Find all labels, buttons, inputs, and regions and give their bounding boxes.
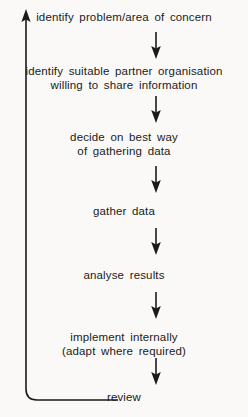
flow-node-decide-best-way: decide on best way of gathering data [0, 130, 248, 158]
flow-node-line: (adapt where required) [0, 344, 248, 358]
connector-arrow-2 [149, 96, 163, 124]
flow-node-implement-internally: implement internally (adapt where requir… [0, 330, 248, 358]
connector-arrow-4 [149, 228, 163, 256]
flow-node-line: of gathering data [0, 144, 248, 158]
flow-node-line: identify problem/area of concern [0, 10, 248, 24]
connector-arrow-1 [149, 32, 163, 60]
flow-node-line: gather data [0, 204, 248, 218]
flow-node-identify-partner: identify suitable partner organisation w… [0, 64, 248, 92]
flow-node-identify-problem: identify problem/area of concern [0, 10, 248, 24]
flow-node-line: analyse results [0, 268, 248, 282]
flow-node-line: identify suitable partner organisation [0, 64, 248, 78]
connector-arrow-5 [149, 292, 163, 320]
flowchart-canvas: identify problem/area of concern identif… [0, 0, 248, 417]
flow-node-line: willing to share information [0, 78, 248, 92]
flow-node-line: implement internally [0, 330, 248, 344]
flow-node-line: review [0, 390, 248, 404]
connector-arrow-3 [149, 166, 163, 194]
connector-arrow-6 [149, 358, 163, 386]
flow-node-review: review [0, 390, 248, 404]
flow-node-gather-data: gather data [0, 204, 248, 218]
flow-node-line: decide on best way [0, 130, 248, 144]
flow-node-analyse-results: analyse results [0, 268, 248, 282]
